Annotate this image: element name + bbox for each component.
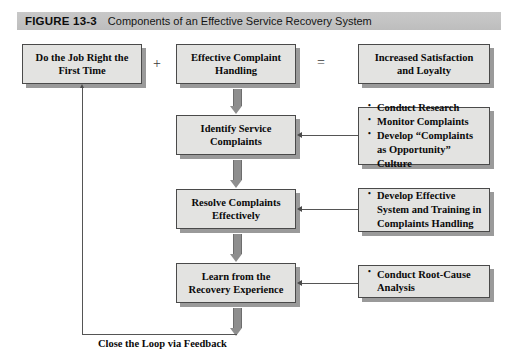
node-line-1: Resolve Complaints bbox=[192, 196, 281, 209]
node-line-2: Complaints bbox=[201, 135, 272, 148]
bullets-identify-actions[interactable]: Conduct Research Monitor Complaints Deve… bbox=[358, 107, 490, 165]
feedback-loop-horizontal bbox=[82, 334, 237, 335]
node-line-2: Effectively bbox=[192, 209, 281, 222]
node-text: Effective Complaint Handling bbox=[191, 51, 281, 78]
node-text: Resolve Complaints Effectively bbox=[192, 196, 281, 223]
node-do-the-job-right[interactable]: Do the Job Right the First Time bbox=[22, 44, 142, 84]
feedback-loop-caption: Close the Loop via Feedback bbox=[98, 338, 227, 349]
figure-title-bar: FIGURE 13-3 Components of an Effective S… bbox=[17, 12, 501, 30]
arrow-learn-to-feedback bbox=[230, 308, 243, 336]
bullet-list: Develop Effective System and Training in… bbox=[368, 189, 483, 230]
bullets-resolve-actions[interactable]: Develop Effective System and Training in… bbox=[358, 188, 490, 232]
arrow-identify-to-resolve bbox=[230, 160, 243, 188]
figure-number-label: FIGURE 13-3 bbox=[25, 15, 97, 27]
arrow-handling-to-identify bbox=[230, 89, 243, 114]
plus-operator: + bbox=[151, 56, 163, 72]
connector-resolve-to-actions bbox=[301, 209, 358, 210]
node-line-1: Identify Service bbox=[201, 122, 272, 135]
node-line-1: Effective Complaint bbox=[191, 51, 281, 64]
node-line-2: Handling bbox=[191, 64, 281, 77]
bullet-list: Conduct Research Monitor Complaints Deve… bbox=[368, 101, 483, 171]
equals-operator: = bbox=[315, 55, 327, 71]
node-text: Do the Job Right the First Time bbox=[36, 51, 129, 78]
connector-learn-to-actions bbox=[301, 283, 358, 284]
node-identify-service-complaints[interactable]: Identify Service Complaints bbox=[176, 115, 296, 155]
node-text: Identify Service Complaints bbox=[201, 122, 272, 149]
bullet-list: Conduct Root-Cause Analysis bbox=[368, 268, 483, 296]
list-item: Conduct Root-Cause Analysis bbox=[368, 268, 483, 295]
node-effective-complaint-handling[interactable]: Effective Complaint Handling bbox=[176, 44, 296, 84]
node-text: Increased Satisfaction and Loyalty bbox=[375, 51, 474, 78]
node-increased-satisfaction[interactable]: Increased Satisfaction and Loyalty bbox=[358, 44, 490, 84]
feedback-loop-vertical bbox=[82, 88, 83, 335]
arrowhead-identify-actions bbox=[297, 132, 302, 138]
node-line-1: Learn from the bbox=[189, 270, 284, 283]
bullet-text-cont: System and Training in bbox=[377, 203, 483, 217]
bullet-text-cont: Culture bbox=[377, 157, 483, 171]
bullet-text: Conduct Root-Cause bbox=[377, 269, 471, 280]
figure-container: FIGURE 13-3 Components of an Effective S… bbox=[0, 0, 521, 357]
bullet-text: Develop “Complaints bbox=[377, 130, 473, 141]
list-item: Develop Effective System and Training in… bbox=[368, 189, 483, 230]
node-resolve-complaints-effectively[interactable]: Resolve Complaints Effectively bbox=[176, 189, 296, 229]
node-line-1: Do the Job Right the bbox=[36, 51, 129, 64]
node-text: Learn from the Recovery Experience bbox=[189, 270, 284, 297]
list-item: Conduct Research bbox=[368, 101, 483, 115]
bullet-text-cont: Analysis bbox=[377, 281, 483, 295]
bullet-text-cont: as Opportunity” bbox=[377, 143, 483, 157]
arrow-resolve-to-learn bbox=[230, 234, 243, 262]
node-learn-from-recovery-experience[interactable]: Learn from the Recovery Experience bbox=[176, 263, 296, 303]
bullet-text: Develop Effective bbox=[377, 190, 455, 201]
node-line-2: Recovery Experience bbox=[189, 283, 284, 296]
node-line-2: First Time bbox=[36, 64, 129, 77]
arrowhead-learn-actions bbox=[297, 280, 302, 286]
list-item: Monitor Complaints bbox=[368, 115, 483, 129]
bullet-text-cont: Complaints Handling bbox=[377, 217, 483, 231]
bullets-learn-actions[interactable]: Conduct Root-Cause Analysis bbox=[358, 265, 490, 298]
feedback-loop-arrowhead bbox=[80, 84, 84, 88]
figure-caption-label: Components of an Effective Service Recov… bbox=[108, 15, 372, 27]
arrowhead-resolve-actions bbox=[297, 206, 302, 212]
bullet-text: Monitor Complaints bbox=[377, 116, 469, 127]
node-line-2: and Loyalty bbox=[375, 64, 474, 77]
list-item: Develop “Complaints as Opportunity” Cult… bbox=[368, 129, 483, 170]
connector-identify-to-actions bbox=[301, 135, 358, 136]
bullet-text: Conduct Research bbox=[377, 102, 459, 113]
node-line-1: Increased Satisfaction bbox=[375, 51, 474, 64]
